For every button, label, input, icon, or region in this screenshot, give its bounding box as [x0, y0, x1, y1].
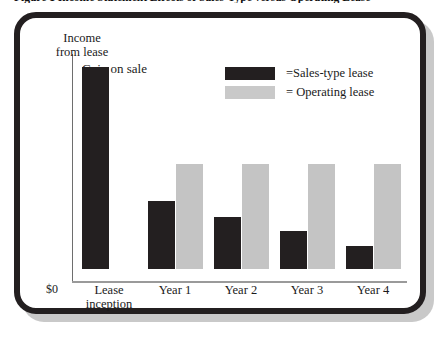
figure-panel: Incomefrom lease $0 Gain on sale =Sales-…: [14, 12, 426, 314]
legend-swatch-sales-type-icon: [225, 67, 275, 80]
bar-sales-type-year-1: [148, 201, 175, 269]
figure-title: Figure 1 Income Statement Effects of Sal…: [14, 0, 434, 3]
bar-operating-year-3: [308, 164, 335, 269]
bar-operating-year-2: [242, 164, 269, 269]
bar-sales-type-lease-inception: [82, 67, 109, 269]
y-axis-zero-label: $0: [46, 282, 58, 297]
bar-sales-type-year-3: [280, 231, 307, 269]
bar-operating-year-4: [374, 164, 401, 269]
bar-sales-type-year-4: [346, 246, 373, 269]
bar-operating-year-1: [176, 164, 203, 269]
legend-item-sales-type: =Sales-type lease: [225, 66, 374, 80]
y-axis-label: Incomefrom lease: [36, 32, 128, 59]
legend-item-operating: = Operating lease: [225, 85, 374, 99]
x-tick-label-year-4: Year 4: [330, 284, 416, 298]
bar-chart: Incomefrom lease $0 Gain on sale =Sales-…: [20, 18, 420, 308]
chart-legend: =Sales-type lease = Operating lease: [225, 66, 374, 104]
legend-swatch-operating-icon: [225, 86, 275, 99]
bar-sales-type-year-2: [214, 217, 241, 269]
y-axis-line: [72, 54, 73, 282]
legend-label-operating: = Operating lease: [286, 85, 374, 100]
legend-label-sales-type: =Sales-type lease: [286, 66, 373, 81]
y-axis-label-line1: Incomefrom lease: [36, 32, 128, 59]
